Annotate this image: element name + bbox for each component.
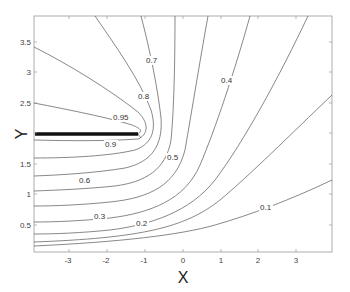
y-axis-label: Y <box>13 128 30 139</box>
contour-08 <box>34 16 153 158</box>
contour-label-0.3: 0.3 <box>94 212 106 221</box>
contour-04 <box>34 16 250 222</box>
contour-05 <box>34 16 208 206</box>
x-tick-label: -2 <box>102 256 110 265</box>
x-tick-label: 3 <box>294 256 299 265</box>
x-tick-label: 0 <box>181 256 186 265</box>
contour-label-0.6: 0.6 <box>79 176 91 185</box>
contour-chart: 0.7 0.8 0.95 0.9 0.4 0.5 0.6 0.3 0.2 0.1… <box>0 0 350 292</box>
x-tick-label: 2 <box>256 256 261 265</box>
y-tick-label: 3.5 <box>20 38 32 47</box>
x-tick-label: -1 <box>140 256 148 265</box>
contour-lines <box>34 16 332 246</box>
contour-label-0.95: 0.95 <box>113 113 129 122</box>
x-axis-label: X <box>178 269 189 286</box>
contour-label-0.5: 0.5 <box>167 153 179 162</box>
x-tick-label: -3 <box>64 256 72 265</box>
contour-03 <box>34 16 308 234</box>
contour-label-0.1: 0.1 <box>260 203 272 212</box>
y-tick-label: 2.5 <box>20 99 32 108</box>
contour-label-0.4: 0.4 <box>221 76 233 85</box>
x-tick-labels: -3 -2 -1 0 1 2 3 <box>64 256 298 265</box>
contour-label-0.7: 0.7 <box>146 56 158 65</box>
contour-label-0.8: 0.8 <box>138 92 150 101</box>
y-tick-label: 1 <box>27 190 32 199</box>
x-tick-label: 1 <box>219 256 224 265</box>
contour-label-0.2: 0.2 <box>136 219 148 228</box>
contour-06 <box>34 16 175 191</box>
contour-02 <box>34 95 332 242</box>
y-tick-label: 1.5 <box>20 160 32 169</box>
y-tick-label: 3 <box>27 68 32 77</box>
contour-label-0.9: 0.9 <box>105 140 117 149</box>
y-tick-label: 0.5 <box>20 221 32 230</box>
